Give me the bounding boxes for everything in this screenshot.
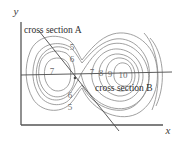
contour-separatrix <box>36 47 81 100</box>
cross-section-a-label: cross section A <box>24 25 82 35</box>
x-axis-label: x <box>165 124 171 136</box>
contour-outer-arc-2 <box>144 33 158 110</box>
contour-plot-svg: y x 5 6 7 6 5 7 8 9 10 cross section A c… <box>0 0 179 147</box>
contour-label-right-8: 8 <box>99 68 104 78</box>
saddle-point-marker <box>74 77 77 80</box>
y-axis-label: y <box>13 5 19 17</box>
contour-label-top-outer: 5 <box>70 42 75 52</box>
contour-label-right-7: 7 <box>90 67 95 77</box>
contour-label-left-peak: 7 <box>50 66 55 76</box>
contour-label-top-inner: 6 <box>70 54 75 64</box>
contour-label-right-9: 9 <box>108 69 113 79</box>
contour-label-right-10: 10 <box>119 70 129 80</box>
contour-label-bottom-outer: 5 <box>68 102 73 112</box>
cross-section-b-label: cross section B <box>95 83 153 93</box>
contour-label-bottom-inner: 6 <box>68 90 73 100</box>
contour-figure: y x 5 6 7 6 5 7 8 9 10 cross section A c… <box>0 0 179 147</box>
